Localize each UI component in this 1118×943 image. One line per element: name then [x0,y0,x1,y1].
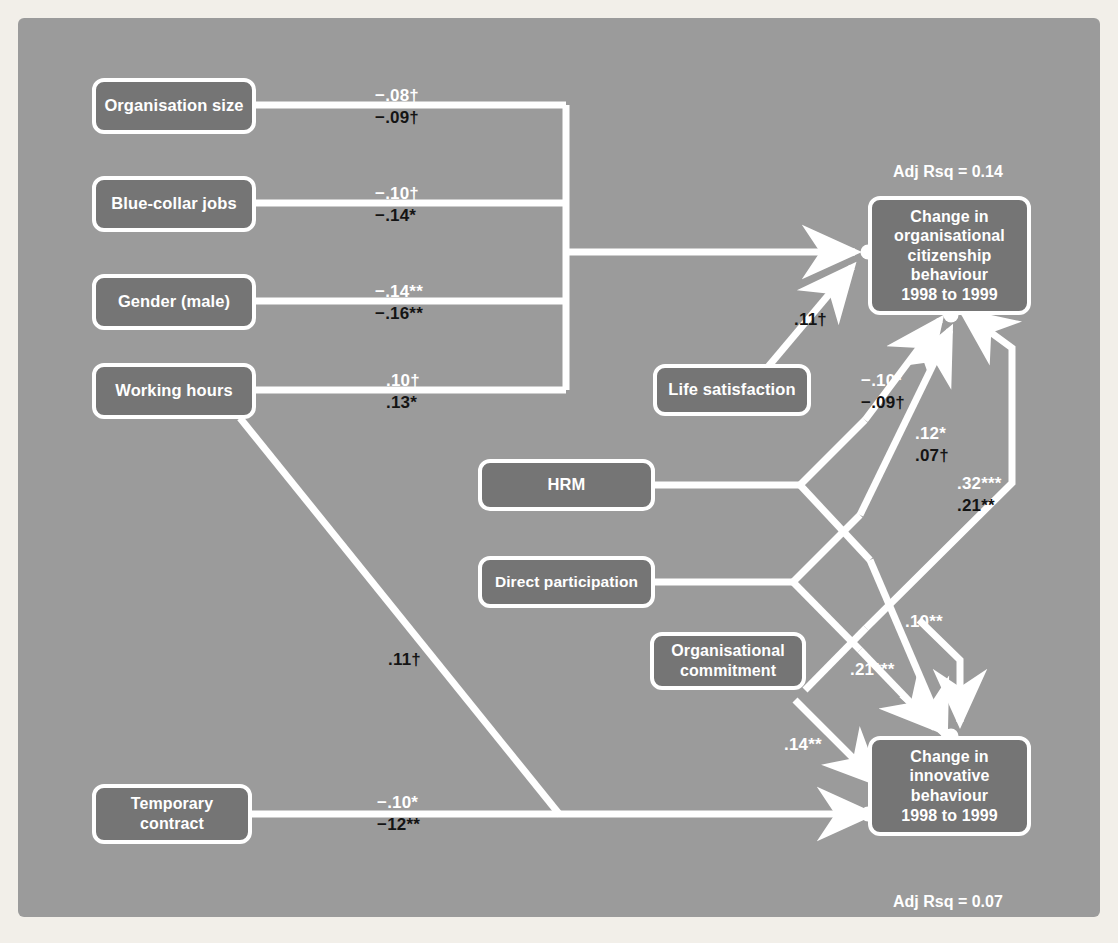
node-direct-participation[interactable]: Direct participation [478,556,655,608]
edge-label-temporary-contract-innovative-top: −.10* [377,793,418,813]
node-gender[interactable]: Gender (male) [92,274,256,330]
edge-label-temporary-contract-innovative-bottom: −12** [377,815,420,835]
path-diagram-figure: Organisation size Blue-collar jobs Gende… [0,0,1118,943]
edge-label-org-size-ocb-top: −.08† [375,86,419,106]
node-org-size[interactable]: Organisation size [92,78,256,134]
node-hrm[interactable]: HRM [478,459,655,511]
node-temporary-contract[interactable]: Temporary contract [92,784,252,844]
edge-label-blue-collar-ocb-bottom: −.14* [375,206,416,226]
node-innovative[interactable]: Change in innovative behaviour 1998 to 1… [868,736,1031,836]
edge-label-blue-collar-ocb-top: −.10† [375,184,419,204]
edge-label-direct-participation-ocb-top: .12* [915,424,946,444]
node-ocb[interactable]: Change in organisational citizenship beh… [868,196,1031,315]
edge-label-hrm-innovative: .10** [905,612,943,632]
edge-label-working-hours-ocb-top: .10† [386,371,420,391]
edge-label-working-hours-innovative: .11† [388,650,421,670]
edge-label-org-commitment-innovative: .14** [784,735,822,755]
edge-label-direct-participation-ocb-bottom: .07† [915,446,949,466]
edge-label-org-commitment-ocb-bottom: .21** [957,496,995,516]
edge-label-hrm-ocb-bottom: −.09† [861,393,905,413]
rsq-ocb: Adj Rsq = 0.14 [893,163,1003,181]
node-life-satisfaction[interactable]: Life satisfaction [653,364,811,416]
edge-label-gender-ocb-bottom: −.16** [375,304,423,324]
edge-label-org-commitment-ocb-top: .32*** [957,474,1002,494]
node-working-hours[interactable]: Working hours [92,363,256,419]
edge-label-hrm-ocb-top: −.10* [861,371,902,391]
node-org-commitment[interactable]: Organisational commitment [650,632,806,690]
edge-label-life-satisfaction-ocb: .11† [794,310,827,330]
node-blue-collar[interactable]: Blue-collar jobs [92,176,256,232]
rsq-innovative: Adj Rsq = 0.07 [893,893,1003,911]
edge-label-direct-participation-innovative: .21*** [850,660,895,680]
edge-label-org-size-ocb-bottom: −.09† [375,108,419,128]
edge-label-working-hours-ocb-bottom: .13* [386,393,417,413]
edge-label-gender-ocb-top: −.14** [375,282,423,302]
